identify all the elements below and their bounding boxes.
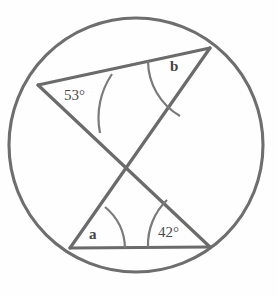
angle-label-bottom-left: a [89,226,97,243]
angle-label-left: 53° [64,87,85,104]
angle-label-bottom-right: 42° [158,224,179,241]
angle-label-top-right: b [170,58,178,75]
geometry-figure [0,0,278,297]
bottom-chord [70,247,210,248]
figure-canvas: 53° b a 42° [0,0,278,297]
